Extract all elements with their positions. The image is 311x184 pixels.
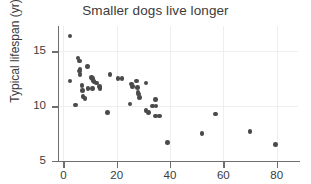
scatter-point <box>157 114 162 119</box>
scatter-point <box>153 97 158 102</box>
gridline-vertical <box>223 26 224 161</box>
gridline-vertical <box>117 26 118 161</box>
scatter-point <box>83 96 88 101</box>
scatter-point <box>85 64 90 69</box>
scatter-point <box>144 81 149 86</box>
x-axis-tick-label: 20 <box>97 169 137 181</box>
y-axis-tick <box>52 161 58 162</box>
gridline-vertical <box>277 26 278 161</box>
x-axis-tick <box>170 162 171 168</box>
x-axis-tick <box>117 162 118 168</box>
scatter-point <box>80 88 85 93</box>
scatter-point <box>108 72 113 77</box>
y-axis-tick-label: 5 <box>6 154 46 166</box>
scatter-point <box>154 104 159 109</box>
scatter-point <box>78 72 83 77</box>
chart-title: Smaller dogs live longer <box>0 3 311 18</box>
x-axis-tick-label: 40 <box>150 169 190 181</box>
y-axis-tick-label: 15 <box>6 44 46 56</box>
x-axis-tick <box>277 162 278 168</box>
scatter-point <box>200 131 205 136</box>
gridline-vertical <box>63 26 64 161</box>
y-axis-tick <box>52 106 58 107</box>
scatter-point <box>273 142 278 147</box>
scatter-point <box>77 59 82 64</box>
scatter-point <box>165 140 170 145</box>
x-axis-tick-label: 80 <box>257 169 297 181</box>
gridline-horizontal <box>58 51 298 52</box>
scatter-point <box>73 103 78 108</box>
scatter-point <box>146 110 151 115</box>
y-axis-line <box>58 26 59 162</box>
x-axis-tick-label: 60 <box>203 169 243 181</box>
x-axis-line <box>52 161 300 162</box>
x-axis-tick <box>63 162 64 168</box>
scatter-point <box>134 79 139 84</box>
scatter-point <box>80 83 85 88</box>
plot-area <box>58 26 298 161</box>
y-axis-tick-label: 10 <box>6 99 46 111</box>
y-axis-label: Typical lifespan (yr) <box>8 0 22 113</box>
scatter-point <box>68 34 73 39</box>
x-axis-tick <box>223 162 224 168</box>
gridline-vertical <box>170 26 171 161</box>
scatter-chart: Smaller dogs live longer Typical lifespa… <box>0 0 311 184</box>
y-axis-tick <box>52 51 58 52</box>
scatter-point <box>98 86 103 91</box>
scatter-point <box>213 112 218 117</box>
scatter-point <box>137 95 142 100</box>
scatter-point <box>248 129 253 134</box>
scatter-point <box>68 79 73 84</box>
scatter-point <box>90 86 95 91</box>
scatter-point <box>120 76 125 81</box>
scatter-point <box>105 110 110 115</box>
x-axis-tick-label: 0 <box>43 169 83 181</box>
gridline-horizontal <box>58 106 298 107</box>
